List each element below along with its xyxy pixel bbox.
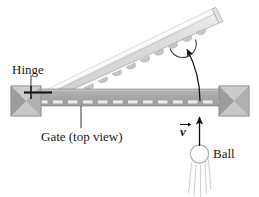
ball-circle xyxy=(190,145,208,163)
hinge-label: Hinge xyxy=(12,62,44,77)
latch-post xyxy=(219,86,249,116)
ball-label: Ball xyxy=(213,146,235,161)
physics-diagram-figure: Hinge Gate (top view) Ball v xyxy=(0,0,259,197)
gate-label: Gate (top view) xyxy=(41,129,123,144)
velocity-label: v xyxy=(180,124,186,139)
hinge-post xyxy=(11,86,41,116)
